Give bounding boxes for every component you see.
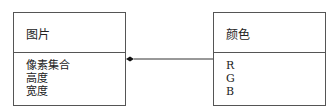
filled-diamond-icon xyxy=(126,57,134,62)
composition-connector xyxy=(0,0,332,111)
